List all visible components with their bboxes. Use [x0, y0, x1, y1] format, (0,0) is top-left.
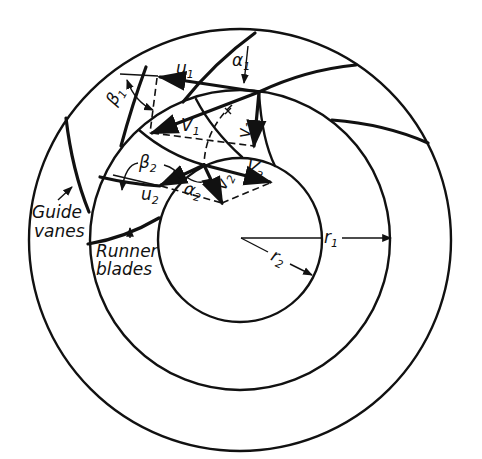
outer-circle — [29, 29, 451, 451]
runner-blades-label-line2: blades — [96, 259, 152, 279]
guide-vanes-leader — [58, 187, 72, 200]
turbine-velocity-diagram: u1 α1 β1 V1 v1 β2 V2 u2 α2 v2 r1 r2 Guid… — [0, 0, 482, 459]
label-u1: u1 — [176, 58, 194, 81]
label-r2: r2 — [267, 245, 289, 272]
label-u2: u2 — [141, 184, 159, 207]
guide-vanes-label-line2: vanes — [34, 221, 85, 241]
guide-vanes-label-line1: Guide — [32, 202, 82, 222]
label-beta2: β2 — [138, 152, 157, 175]
runner-blades-label-line1: Runner — [96, 241, 159, 261]
label-V1: V1 — [181, 115, 200, 138]
label-beta1: β1 — [101, 83, 130, 111]
label-r1: r1 — [324, 227, 338, 250]
inner-circle — [158, 158, 322, 322]
label-v1: v1 — [234, 121, 257, 138]
